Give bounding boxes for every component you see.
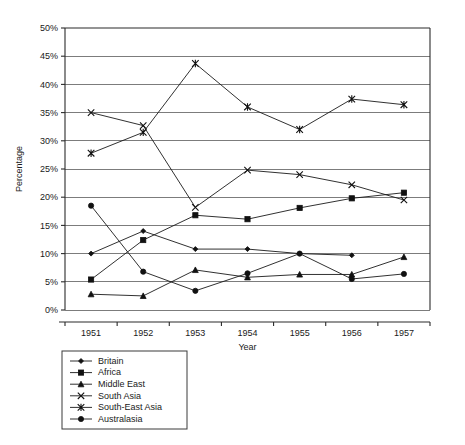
gridlines (65, 28, 430, 310)
y-tick-label: 35% (40, 108, 58, 118)
y-tick-label: 10% (40, 249, 58, 259)
data-point (141, 237, 146, 242)
data-point (297, 251, 302, 256)
legend-item-label: Africa (98, 367, 121, 377)
series-africa (88, 190, 406, 282)
x-axis-title: Year (238, 342, 256, 352)
y-tick-label: 50% (40, 23, 58, 33)
y-tick-label: 5% (45, 277, 58, 287)
x-tick-label: 1953 (185, 328, 205, 338)
legend-item-label: Middle East (98, 379, 146, 389)
series-line (91, 113, 404, 208)
legend-item-label: South-East Asia (98, 402, 162, 412)
y-tick-label: 45% (40, 51, 58, 61)
x-tick-label: 1956 (342, 328, 362, 338)
data-point (349, 276, 354, 281)
line-chart: 0%5%10%15%20%25%30%35%40%45%50% 19511952… (0, 0, 465, 445)
data-point (192, 204, 198, 210)
data-point (88, 277, 93, 282)
y-tick-label: 20% (40, 192, 58, 202)
data-point (349, 196, 354, 201)
x-tick-label: 1955 (290, 328, 310, 338)
x-tick-label: 1952 (133, 328, 153, 338)
series-south-east-asia (88, 60, 407, 157)
y-tick-label: 25% (40, 164, 58, 174)
data-series (88, 60, 407, 299)
data-point (140, 129, 147, 136)
data-point (245, 271, 250, 276)
data-point (89, 251, 94, 256)
chart-legend: BritainAfricaMiddle EastSouth AsiaSouth-… (62, 351, 187, 429)
data-point (192, 60, 199, 67)
data-point (193, 288, 198, 293)
data-point (193, 213, 198, 218)
data-point (401, 190, 406, 195)
x-tick-label: 1954 (237, 328, 257, 338)
series-line (91, 193, 404, 280)
x-tick-label: 1957 (394, 328, 414, 338)
x-tick-label: 1951 (81, 328, 101, 338)
data-point (296, 126, 303, 133)
x-axis-ticks: 1951195219531954195519561957 (65, 322, 430, 338)
legend-marker (78, 416, 83, 421)
legend-item-label: Britain (98, 356, 124, 366)
data-point (88, 150, 95, 157)
legend-item-label: Australasia (98, 414, 143, 424)
y-tick-label: 15% (40, 221, 58, 231)
data-point (401, 254, 407, 260)
y-axis-ticks: 0%5%10%15%20%25%30%35%40%45%50% (40, 23, 65, 315)
data-point (244, 103, 251, 110)
series-line (91, 231, 352, 255)
y-tick-label: 40% (40, 80, 58, 90)
data-point (192, 267, 198, 273)
data-point (193, 247, 198, 252)
data-point (401, 197, 407, 203)
axes (59, 28, 430, 322)
legend-item-label: South Asia (98, 391, 141, 401)
chart-canvas: 0%5%10%15%20%25%30%35%40%45%50% 19511952… (0, 0, 465, 445)
y-tick-label: 0% (45, 305, 58, 315)
data-point (297, 205, 302, 210)
y-tick-label: 30% (40, 136, 58, 146)
data-point (245, 217, 250, 222)
data-point (141, 229, 146, 234)
data-point (401, 271, 406, 276)
data-point (88, 203, 93, 208)
legend-marker (78, 370, 83, 375)
y-axis-title: Percentage (14, 146, 24, 192)
series-south-asia (88, 109, 407, 210)
data-point (245, 247, 250, 252)
data-point (140, 122, 146, 128)
data-point (141, 269, 146, 274)
